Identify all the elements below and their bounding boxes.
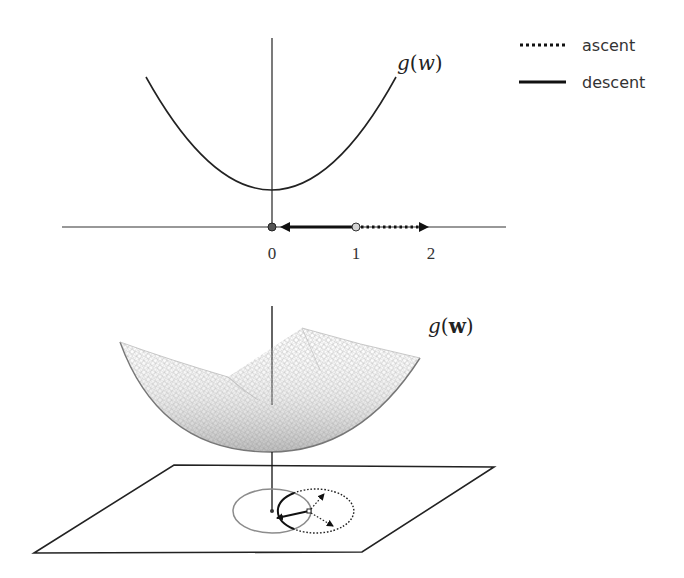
top-plot: 0 1 2 g(w) — [62, 38, 506, 263]
gradient-descent-figure: 0 1 2 g(w) ascent descent — [0, 0, 684, 578]
legend-descent-label: descent — [582, 73, 645, 92]
tick-label-1: 1 — [352, 244, 361, 263]
function-label-bottom: g(w) — [428, 314, 474, 338]
bottom-plot: g(w) — [34, 306, 494, 553]
parabola-curve — [146, 77, 396, 190]
function-label-top: g(w) — [397, 51, 443, 75]
ascent-direction-arrow-down — [311, 513, 333, 526]
tick-label-2: 2 — [427, 244, 436, 263]
legend: ascent descent — [519, 36, 645, 92]
descent-direction-arrow — [277, 511, 309, 518]
tick-label-0: 0 — [268, 244, 277, 263]
ascent-direction-arrow-up — [311, 494, 324, 509]
point-at-zero — [268, 223, 276, 231]
ascent-contour-dotted — [294, 489, 354, 533]
minimum-point — [270, 509, 274, 513]
surface-shading — [120, 328, 420, 452]
current-point — [307, 509, 311, 513]
point-at-one — [352, 223, 360, 231]
legend-ascent-label: ascent — [582, 36, 635, 55]
descent-contour-solid — [278, 493, 294, 529]
input-plane — [34, 465, 494, 553]
